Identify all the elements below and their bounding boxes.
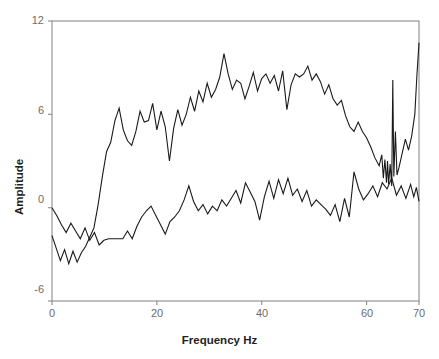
chart-figure: 12 6 0 -6 0 20 40 60 70 Frequency Hz Amp… (0, 0, 439, 359)
y-tick-label-6: 6 (18, 105, 44, 116)
x-tick-label-20: 20 (145, 308, 169, 319)
line-chart-plot (0, 0, 439, 359)
y-tick-label-12: 12 (18, 15, 44, 26)
plot-box (52, 21, 419, 301)
x-tick-label-40: 40 (250, 308, 274, 319)
x-tick-label-70: 70 (407, 308, 431, 319)
series-line-lower-curve (52, 172, 419, 245)
axis-ticks (48, 21, 419, 305)
x-axis-title: Frequency Hz (0, 335, 439, 347)
series-line-upper-curve (52, 43, 419, 264)
data-series (52, 43, 419, 264)
x-tick-label-0: 0 (40, 308, 64, 319)
y-axis-title: Amplitude (14, 159, 26, 215)
plot-frame (52, 21, 419, 301)
y-tick-label-minus-6: -6 (18, 284, 44, 295)
x-tick-label-60: 60 (355, 308, 379, 319)
